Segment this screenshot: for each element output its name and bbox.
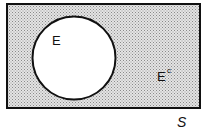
- universe-label: S: [177, 114, 187, 130]
- venn-diagram: E E c S: [0, 0, 206, 131]
- complement-superscript: c: [167, 66, 171, 75]
- set-e-label: E: [52, 33, 61, 48]
- set-e-circle: [33, 17, 116, 100]
- complement-label: E: [157, 69, 166, 84]
